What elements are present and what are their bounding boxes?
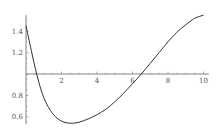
x-tick-label: 2 <box>59 77 63 85</box>
x-tick-label: 4 <box>95 77 100 85</box>
x-tick-label: 10 <box>199 77 208 85</box>
y-tick-label: 1.2 <box>12 49 23 57</box>
data-line <box>26 15 204 123</box>
line-chart: 0.60.81.21.4 246810 <box>0 0 217 138</box>
y-axis: 0.60.81.21.4 <box>12 15 29 124</box>
x-tick-label: 8 <box>166 77 170 85</box>
x-axis: 246810 <box>26 72 209 86</box>
y-tick-label: 0.6 <box>12 113 24 121</box>
y-tick-label: 0.8 <box>12 92 23 100</box>
y-tick-label: 1.4 <box>12 28 24 36</box>
